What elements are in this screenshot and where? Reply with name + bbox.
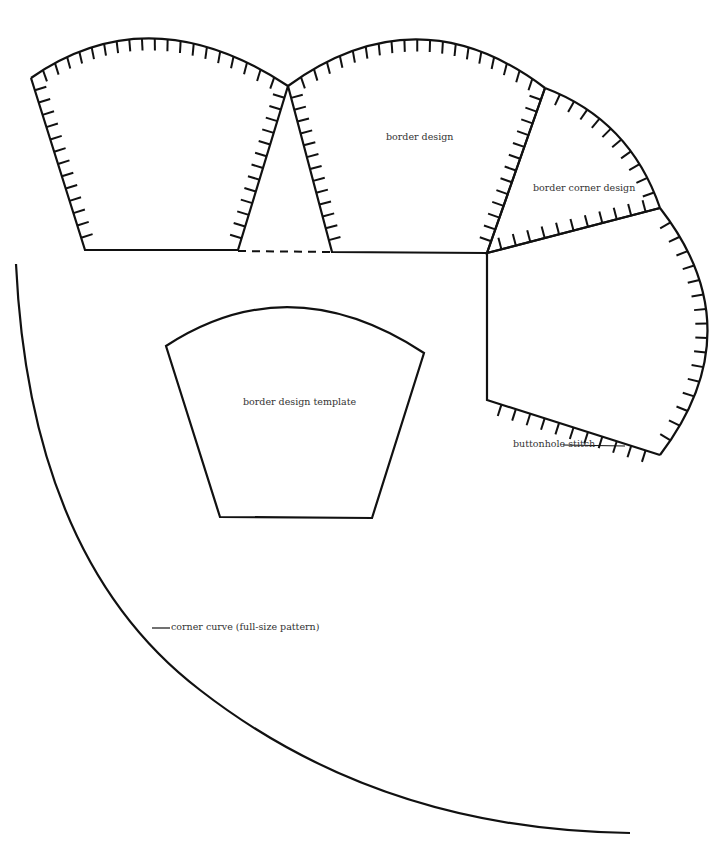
border-panel-design (288, 39, 545, 253)
pattern-diagram: border design border corner design borde… (0, 0, 725, 844)
label-buttonhole-stitch: buttonhole stitch (513, 438, 595, 449)
label-border-design: border design (386, 131, 453, 142)
border-panel-left (31, 38, 288, 250)
label-border-corner-design: border corner design (533, 182, 635, 193)
corner-curve (16, 264, 630, 833)
border-panel-right (487, 208, 708, 455)
label-corner-curve: corner curve (full-size pattern) (171, 621, 319, 632)
label-border-design-template: border design template (243, 396, 356, 407)
pattern-drawing (0, 0, 725, 844)
border-design-template-shape (166, 307, 424, 518)
dashed-fold-line (238, 251, 332, 252)
